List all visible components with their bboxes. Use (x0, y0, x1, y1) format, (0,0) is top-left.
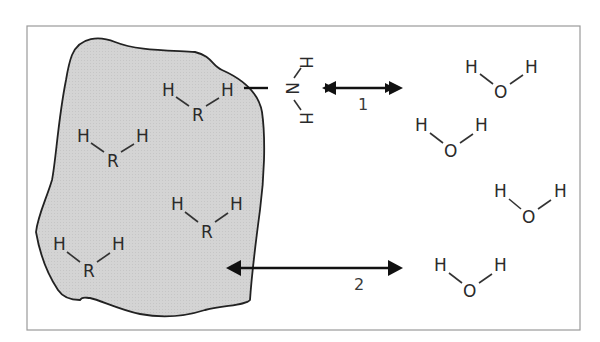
r-group: R (201, 222, 213, 242)
hydrogen-atom: H (162, 80, 175, 100)
hydrogen-atom: H (494, 181, 507, 201)
r-group: R (192, 105, 204, 125)
hydrogen-atom: H (525, 57, 538, 77)
hydrogen-atom: H (434, 255, 447, 275)
oxygen-atom: O (522, 207, 535, 227)
r-group: R (83, 261, 95, 281)
hydrogen-atom: H (171, 194, 184, 214)
hydrogen-atom: H (465, 57, 478, 77)
nitrogen-atom: N (282, 82, 302, 95)
hydrogen-atom: H (296, 112, 316, 125)
hydrogen-atom: H (230, 194, 243, 214)
hydrogen-atom: H (296, 56, 316, 69)
hydrogen-atom: H (475, 115, 488, 135)
arrow-label: 1 (358, 95, 368, 114)
diagram-canvas: H H R H H R H H R H H R N H H (0, 0, 600, 342)
hydrogen-atom: H (136, 126, 149, 146)
r-group: R (107, 151, 119, 171)
hydrogen-atom: H (112, 234, 125, 254)
hydrogen-atom: H (554, 181, 567, 201)
hydrogen-atom: H (221, 80, 234, 100)
oxygen-atom: O (494, 82, 507, 102)
oxygen-atom: O (463, 281, 476, 301)
hydrogen-atom: H (415, 115, 428, 135)
hydrogen-atom: H (494, 255, 507, 275)
hydrogen-atom: H (53, 234, 66, 254)
hydrogen-atom: H (77, 126, 90, 146)
arrow-label: 2 (354, 275, 364, 294)
oxygen-atom: O (444, 141, 457, 161)
